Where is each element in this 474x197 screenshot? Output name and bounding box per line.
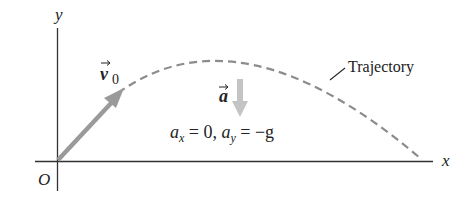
trajectory-curve: [118, 61, 420, 158]
ay-value: = −g: [236, 122, 274, 142]
x-axis-label: x: [441, 151, 450, 170]
acceleration-equation: ax = 0, ay = −g: [170, 122, 274, 145]
ax-value: = 0,: [184, 122, 221, 142]
origin-label: O: [38, 170, 50, 189]
ax-symbol: a: [170, 122, 179, 142]
acceleration-label: a: [219, 85, 228, 107]
projectile-diagram: y x O v 0 a ax = 0, ay = −g Trajectory: [0, 0, 474, 197]
acceleration-symbol: a: [219, 86, 228, 106]
acceleration-arrow-icon: [232, 79, 248, 117]
velocity-subscript: 0: [112, 72, 119, 87]
velocity-arrow-icon: [58, 88, 124, 160]
ay-symbol: a: [221, 122, 230, 142]
trajectory-leader-line: [330, 68, 345, 80]
trajectory-label: Trajectory: [348, 58, 414, 76]
velocity-label: v 0: [100, 61, 119, 88]
velocity-symbol: v: [100, 64, 109, 84]
y-axis-label: y: [53, 5, 63, 24]
